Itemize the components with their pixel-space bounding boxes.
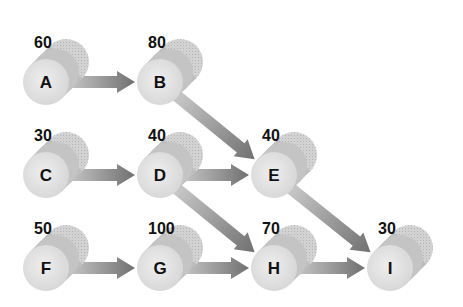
node-label: C [40,166,52,185]
nodes-layer: A60B80C30D40E40F50G100H70I30 [23,34,433,291]
node-label: I [388,259,393,278]
node-label: B [154,73,166,92]
node-H: H70 [251,220,317,291]
node-value: 60 [34,34,52,51]
node-B: B80 [137,34,203,105]
node-value: 80 [148,34,166,51]
node-D: D40 [137,127,203,198]
node-A: A60 [23,34,89,105]
node-value: 40 [262,127,280,144]
node-label: H [268,259,280,278]
edges-layer [67,71,377,279]
node-E: E40 [251,127,317,198]
node-value: 50 [34,220,52,237]
node-value: 100 [148,220,175,237]
node-label: D [154,166,166,185]
node-label: A [40,73,52,92]
node-I: I30 [367,220,433,291]
node-value: 40 [148,127,166,144]
node-F: F50 [23,220,89,291]
node-G: G100 [137,220,203,291]
node-label: F [41,259,51,278]
node-label: G [153,259,166,278]
node-value: 30 [34,127,52,144]
node-value: 70 [262,220,280,237]
node-label: E [268,166,279,185]
network-diagram: A60B80C30D40E40F50G100H70I30 [0,0,463,307]
node-C: C30 [23,127,89,198]
node-value: 30 [378,220,396,237]
